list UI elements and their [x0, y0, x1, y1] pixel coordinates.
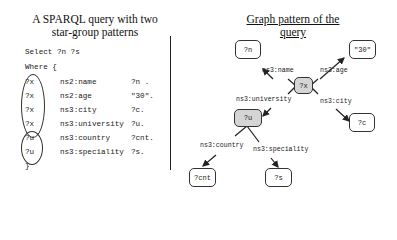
edge-label-speciality: ns3:speciality	[253, 146, 308, 153]
node-s: ?s	[265, 168, 292, 187]
node-c: ?c	[349, 113, 375, 132]
node-u: ?u	[234, 109, 262, 127]
edge-label-city: ns3:city	[320, 98, 352, 105]
node-cnt: ?cnt	[189, 168, 216, 187]
node-n: ?n	[235, 40, 261, 59]
node-x: ?x	[294, 77, 313, 94]
edge-label-university: ns3:university	[236, 96, 291, 103]
edge-label-age: ns3:age	[320, 67, 348, 74]
edge-label-name: ns3:name	[262, 67, 294, 74]
node-30: "30"	[349, 40, 376, 59]
edge-label-country: ns3:country	[200, 142, 244, 149]
